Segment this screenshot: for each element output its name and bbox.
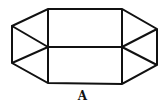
edge-right-bottom-diag xyxy=(122,47,157,65)
edge-left-top-diag xyxy=(12,26,48,47)
edge-left-bottom-diag xyxy=(12,47,48,63)
edge-right-top-diag xyxy=(122,29,157,47)
figure-label: A xyxy=(0,89,165,103)
